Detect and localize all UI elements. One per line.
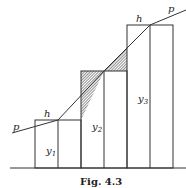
label-y3: y3 (137, 93, 149, 106)
shaded-triangle-1 (81, 71, 104, 120)
figure-caption: Fig. 4.3 (80, 176, 122, 187)
label-h-1: h (44, 108, 50, 119)
label-p-left: p (13, 121, 20, 132)
label-p-right: p (168, 3, 175, 14)
label-y1: y1 (45, 145, 56, 158)
label-y2: y2 (91, 121, 103, 134)
figure-4-3-diagram: p p h h y1 y2 y3 Fig. 4.3 (0, 0, 186, 188)
label-h-3: h (136, 13, 142, 24)
